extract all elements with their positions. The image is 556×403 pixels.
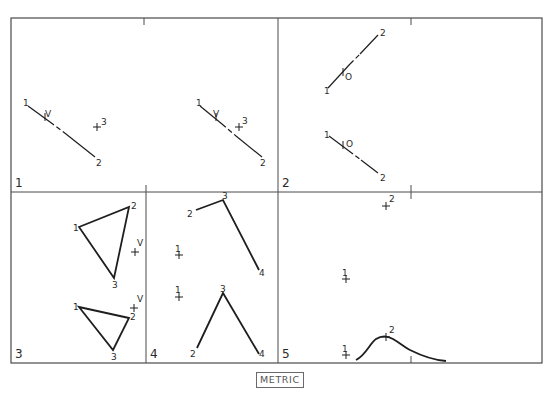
triangle-outline xyxy=(79,207,129,278)
panel-5: 52121 xyxy=(282,194,446,361)
lower-triangle: 123V xyxy=(73,294,144,362)
point-label: 1 xyxy=(324,86,330,96)
left-view: 1V23 xyxy=(23,98,107,168)
point-label: 1 xyxy=(73,223,79,233)
line-segment xyxy=(66,134,95,157)
top-view: 1O2 xyxy=(324,28,386,96)
point-label: V xyxy=(137,238,144,248)
right-view: 1V23 xyxy=(196,98,266,168)
point-label: 3 xyxy=(242,116,248,126)
point-label: 3 xyxy=(111,352,117,362)
profile-curve: 21 xyxy=(342,325,446,361)
point-label: 2 xyxy=(187,209,193,219)
panel-dividers xyxy=(11,18,542,363)
point-label: 2 xyxy=(131,201,137,211)
point-label: 1 xyxy=(175,244,181,254)
point-label: 3 xyxy=(220,284,226,294)
point-label: 2 xyxy=(190,349,196,359)
panel-number: 1 xyxy=(15,176,23,190)
panel-3: 3123V123V xyxy=(15,201,144,362)
profile-curve-path xyxy=(356,336,446,361)
panels: 11V231V2321O21O23123V123V42341234152121 xyxy=(15,28,446,362)
hidden-line-segment xyxy=(222,124,236,136)
point-label: V xyxy=(137,294,144,304)
upper-points: 21 xyxy=(342,194,395,283)
line-segment xyxy=(360,35,378,54)
point-label: O xyxy=(345,72,352,82)
line-segment xyxy=(361,160,378,173)
point-label: 2 xyxy=(260,158,266,168)
drawing-sheet: 11V231V2321O21O23123V123V42341234152121 xyxy=(0,0,556,403)
panel-number: 4 xyxy=(150,347,158,361)
point-label: V xyxy=(45,109,52,119)
point-label: 1 xyxy=(342,268,348,278)
hidden-line-segment xyxy=(350,54,360,64)
unit-label-metric: METRIC xyxy=(256,372,304,388)
point-label: 1 xyxy=(342,344,348,354)
point-label: 3 xyxy=(112,280,118,290)
point-label: 4 xyxy=(259,349,265,359)
point-label: 1 xyxy=(196,98,202,108)
upper-triangle: 123V xyxy=(73,201,144,290)
polyline-outline xyxy=(197,293,259,354)
panel-number: 3 xyxy=(15,347,23,361)
point-label: 3 xyxy=(222,191,228,201)
point-label: 1 xyxy=(324,130,330,140)
point-label: 1 xyxy=(73,302,79,312)
panel-number: 2 xyxy=(282,176,290,190)
point-label: O xyxy=(346,139,353,149)
line-segment xyxy=(236,136,262,157)
outer-frame xyxy=(11,18,542,363)
point-label: 2 xyxy=(130,312,136,322)
point-label: 2 xyxy=(96,158,102,168)
triangle-outline xyxy=(79,307,129,350)
bottom-view: 1O2 xyxy=(324,130,386,183)
point-label: 2 xyxy=(389,325,395,335)
panel-number: 5 xyxy=(282,347,290,361)
hidden-line-segment xyxy=(349,151,361,160)
upper-polyline: 2341 xyxy=(175,191,265,278)
point-label: 3 xyxy=(101,117,107,127)
lower-polyline: 2341 xyxy=(175,284,265,359)
point-label: 2 xyxy=(380,28,386,38)
point-label: 2 xyxy=(380,173,386,183)
point-label: 1 xyxy=(175,285,181,295)
panel-2: 21O21O2 xyxy=(282,28,386,190)
point-label: 4 xyxy=(259,268,265,278)
point-label: 1 xyxy=(23,98,29,108)
panel-1: 11V231V23 xyxy=(15,98,266,190)
point-label: V xyxy=(213,109,220,119)
polyline-outline xyxy=(196,200,259,270)
panel-4: 423412341 xyxy=(150,191,265,361)
hidden-line-segment xyxy=(50,122,66,134)
point-label: 2 xyxy=(389,194,395,204)
